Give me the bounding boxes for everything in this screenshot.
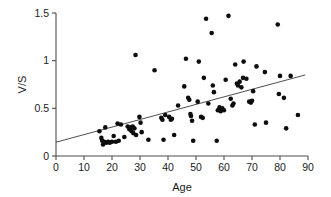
- data-point: [264, 120, 269, 125]
- data-point: [182, 84, 187, 89]
- y-axis-title: V/S: [16, 76, 28, 94]
- data-point: [189, 114, 194, 119]
- data-point: [226, 14, 231, 19]
- data-point: [176, 103, 181, 108]
- x-tick-label: 30: [134, 161, 146, 173]
- y-tick-label: 0.5: [34, 102, 49, 114]
- data-point: [233, 62, 238, 67]
- data-point: [111, 134, 116, 139]
- data-point: [209, 31, 214, 36]
- data-point: [116, 138, 121, 143]
- scatter-chart: 010203040506070809000.511.5AgeV/S: [0, 0, 331, 197]
- data-point: [214, 138, 219, 143]
- data-point: [263, 70, 268, 75]
- data-point: [122, 135, 127, 140]
- data-point: [296, 113, 301, 118]
- data-point: [133, 53, 138, 58]
- data-point: [200, 116, 205, 121]
- plot-area: 010203040506070809000.511.5AgeV/S: [0, 0, 331, 197]
- data-point: [275, 22, 280, 27]
- data-point: [241, 59, 246, 64]
- data-point: [250, 98, 255, 103]
- x-tick-label: 90: [302, 161, 314, 173]
- data-point: [97, 129, 102, 134]
- data-point: [119, 122, 124, 127]
- data-point: [277, 92, 282, 97]
- data-point: [222, 108, 227, 113]
- x-tick-label: 70: [246, 161, 258, 173]
- data-point: [284, 126, 289, 131]
- data-point: [163, 113, 168, 118]
- data-point: [253, 122, 258, 127]
- x-tick-label: 20: [106, 161, 118, 173]
- x-axis-title: Age: [172, 181, 192, 193]
- data-point: [184, 56, 189, 61]
- data-point: [110, 139, 115, 144]
- data-point: [138, 120, 143, 125]
- x-tick-label: 40: [162, 161, 174, 173]
- data-point: [212, 90, 217, 95]
- data-point: [146, 137, 151, 142]
- data-point: [231, 101, 236, 106]
- data-point: [139, 130, 144, 135]
- data-point: [195, 99, 200, 104]
- data-point: [197, 59, 202, 64]
- x-tick-label: 60: [218, 161, 230, 173]
- data-point: [237, 79, 242, 84]
- data-point: [254, 64, 259, 69]
- data-point: [278, 74, 283, 79]
- data-point: [172, 133, 177, 138]
- data-point: [202, 76, 207, 81]
- data-point: [239, 85, 244, 90]
- y-tick-label: 1.5: [34, 7, 49, 19]
- data-point: [244, 76, 249, 81]
- data-point: [132, 126, 137, 131]
- data-point: [187, 97, 192, 102]
- data-point: [204, 16, 209, 21]
- data-point: [206, 101, 211, 106]
- x-tick-label: 10: [78, 161, 90, 173]
- x-tick-label: 50: [190, 161, 202, 173]
- y-tick-label: 0: [43, 150, 49, 162]
- data-point: [191, 138, 196, 143]
- data-point: [137, 115, 142, 120]
- data-point: [251, 89, 256, 94]
- data-point: [160, 117, 165, 122]
- data-point: [170, 117, 175, 122]
- data-point: [134, 133, 139, 138]
- data-point: [161, 137, 166, 142]
- data-point: [228, 97, 233, 102]
- x-tick-label: 80: [274, 161, 286, 173]
- x-tick-label: 0: [53, 161, 59, 173]
- data-point: [282, 96, 287, 101]
- data-point: [211, 83, 216, 88]
- data-point: [223, 77, 228, 82]
- data-point: [190, 118, 195, 123]
- data-point: [152, 68, 157, 73]
- trend-line: [56, 75, 305, 142]
- y-tick-label: 1: [43, 54, 49, 66]
- data-point: [103, 125, 108, 130]
- data-point: [288, 74, 293, 79]
